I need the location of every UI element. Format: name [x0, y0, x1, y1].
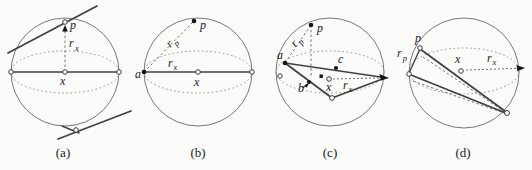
- point-right-pole: [250, 70, 255, 75]
- label-rx-base: r: [487, 51, 492, 65]
- label-rx-sub: x: [348, 84, 353, 94]
- arrowhead-to-p: [62, 25, 68, 32]
- radius-line-rx: [333, 78, 379, 79]
- sphere-diagram-b: a p r p r x x (b): [133, 0, 266, 170]
- caption-b: (b): [190, 145, 205, 160]
- point-a: [142, 70, 147, 75]
- point-right-pole: [117, 70, 122, 75]
- sphere-outline: [276, 18, 384, 126]
- segment-rp: [410, 50, 420, 72]
- label-rp-base: r: [397, 46, 402, 60]
- caption-d: (d): [455, 145, 470, 160]
- equator-ellipse: [409, 48, 519, 94]
- point-p: [63, 20, 68, 25]
- label-a: a: [135, 67, 141, 81]
- panel-a: p r x x (a): [0, 0, 133, 170]
- radius-line-rx: [466, 68, 520, 70]
- label-b-leader-arrow: [305, 84, 310, 88]
- label-rx-sub: x: [74, 43, 79, 53]
- label-p: p: [316, 21, 323, 35]
- point-x: [459, 69, 464, 74]
- sphere-diagram-d: p r p x r x (d): [399, 0, 532, 170]
- panel-c: a p r p c b x r x (c): [266, 0, 399, 170]
- label-a: a: [277, 48, 283, 62]
- caption-c: (c): [323, 145, 337, 160]
- point-left: [407, 72, 412, 77]
- label-x: x: [325, 80, 332, 94]
- arrowhead-rx: [517, 65, 526, 71]
- label-rx-base: r: [69, 36, 74, 50]
- label-b: b: [298, 81, 304, 95]
- panel-b: a p r p r x x (b): [133, 0, 266, 170]
- point-left-pole: [9, 70, 14, 75]
- label-c: c: [338, 52, 344, 66]
- point-bottom: [330, 96, 335, 101]
- point-p: [192, 19, 197, 24]
- label-p: p: [199, 18, 206, 32]
- point-q: [505, 111, 510, 116]
- point-b: [307, 80, 311, 84]
- label-x: x: [59, 74, 66, 88]
- label-rp-sub: p: [402, 53, 407, 63]
- point-p: [309, 23, 314, 28]
- label-rx-base: r: [168, 56, 173, 70]
- line-left-to-q: [411, 75, 505, 113]
- dashed-line-inner-bottom: [413, 81, 504, 113]
- label-rp: r p: [163, 33, 181, 52]
- point-p: [418, 46, 423, 51]
- label-x: x: [193, 75, 200, 89]
- label-rx-base: r: [343, 78, 348, 92]
- sphere-diagram-a: p r x x (a): [0, 0, 133, 170]
- panel-d: p r p x r x (d): [399, 0, 532, 170]
- point-x: [196, 70, 201, 75]
- sphere-figure: p r x x (a) a p r p r x x (b): [0, 0, 532, 170]
- point-marker-square: [320, 75, 323, 78]
- label-p: p: [414, 31, 421, 45]
- label-p: p: [69, 18, 76, 32]
- sphere-diagram-c: a p r p c b x r x (c): [266, 0, 399, 170]
- point-equator-left: [278, 74, 282, 78]
- label-rx-sub: x: [492, 57, 497, 67]
- label-x: x: [454, 52, 461, 66]
- point-a: [283, 61, 288, 66]
- point-tangent-bottom: [74, 128, 79, 133]
- chord-bottom-right: [332, 78, 385, 98]
- point-c: [334, 66, 338, 70]
- chord-a-right: [285, 63, 384, 78]
- caption-a: (a): [56, 145, 70, 160]
- label-rx-sub: x: [173, 62, 178, 72]
- tangent-line-top: [8, 6, 97, 53]
- tangent-line-bottom: [58, 111, 131, 139]
